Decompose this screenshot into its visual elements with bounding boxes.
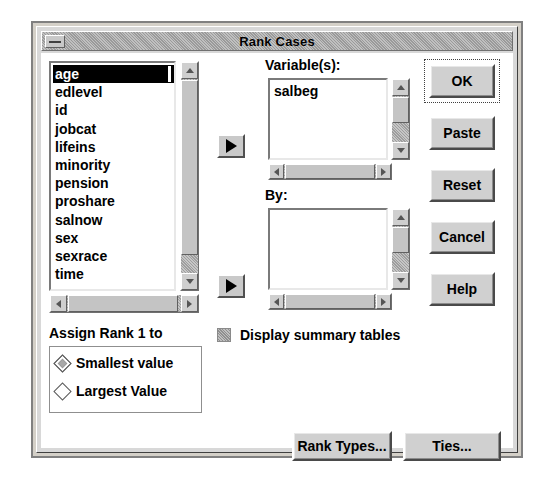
by-label: By: <box>265 187 288 203</box>
move-to-by-button[interactable] <box>217 274 245 298</box>
checkbox-box-icon[interactable] <box>217 328 231 342</box>
scroll-right-icon[interactable] <box>181 295 198 312</box>
reset-button[interactable]: Reset <box>429 168 495 202</box>
variables-vertical-scrollbar[interactable] <box>391 78 410 160</box>
by-list[interactable] <box>268 208 388 290</box>
list-item[interactable]: sex <box>53 229 174 247</box>
ok-button-label: OK <box>452 73 473 89</box>
list-item[interactable]: jobcat <box>53 120 174 138</box>
scrollbar-thumb[interactable] <box>392 97 409 123</box>
list-item[interactable]: salnow <box>53 211 174 229</box>
list-item[interactable]: sexrace <box>53 247 174 265</box>
arrow-right-icon <box>226 279 237 293</box>
cancel-button[interactable]: Cancel <box>429 220 495 254</box>
source-list-horizontal-scrollbar[interactable] <box>49 294 199 313</box>
scroll-left-icon[interactable] <box>269 294 284 309</box>
ties-button[interactable]: Ties... <box>403 431 501 461</box>
scrollbar-thumb[interactable] <box>285 294 375 309</box>
list-item[interactable]: pension <box>53 174 174 192</box>
scroll-up-icon[interactable] <box>392 79 409 96</box>
dialog-body: age edlevel id jobcat lifeins minority p… <box>41 53 513 448</box>
radio-largest-value-label: Largest Value <box>76 383 167 399</box>
scroll-up-icon[interactable] <box>392 209 409 226</box>
display-summary-tables-checkbox[interactable]: Display summary tables <box>217 327 400 343</box>
paste-button[interactable]: Paste <box>429 116 495 150</box>
window-menu-icon[interactable] <box>45 35 65 48</box>
arrow-right-icon <box>226 139 237 153</box>
variables-horizontal-scrollbar[interactable] <box>268 163 392 180</box>
list-item[interactable]: age <box>53 65 174 83</box>
list-item[interactable]: id <box>53 101 174 119</box>
ties-button-label: Ties... <box>432 438 471 454</box>
list-item[interactable]: proshare <box>53 192 174 210</box>
scroll-left-icon[interactable] <box>269 164 284 179</box>
scrollbar-thumb[interactable] <box>285 164 375 179</box>
scroll-down-icon[interactable] <box>181 273 198 290</box>
rank-cases-dialog: Rank Cases age edlevel id jobcat lifeins… <box>31 21 523 458</box>
rank-types-button-label: Rank Types... <box>297 438 386 454</box>
list-item[interactable]: edlevel <box>53 83 174 101</box>
list-item[interactable]: lifeins <box>53 138 174 156</box>
variables-list[interactable]: salbeg <box>268 78 388 160</box>
scroll-right-icon[interactable] <box>376 164 391 179</box>
radio-largest-value[interactable]: Largest Value <box>56 383 167 399</box>
variables-label: Variable(s): <box>265 57 340 73</box>
scroll-down-icon[interactable] <box>392 272 409 289</box>
title-bar[interactable]: Rank Cases <box>41 31 513 51</box>
list-item[interactable]: time <box>53 265 174 283</box>
scrollbar-thumb[interactable] <box>68 295 178 312</box>
scroll-down-icon[interactable] <box>392 142 409 159</box>
help-button[interactable]: Help <box>429 272 495 306</box>
radio-diamond-icon[interactable] <box>53 354 71 372</box>
help-button-label: Help <box>447 281 477 297</box>
move-to-variables-button[interactable] <box>217 134 245 158</box>
scroll-left-icon[interactable] <box>50 295 67 312</box>
assign-rank-label: Assign Rank 1 to <box>49 325 163 341</box>
assign-rank-group: Smallest value Largest Value <box>49 346 202 413</box>
window-title: Rank Cases <box>239 34 315 49</box>
radio-smallest-value-label: Smallest value <box>76 355 173 371</box>
dialog-inner-frame: Rank Cases age edlevel id jobcat lifeins… <box>36 26 518 453</box>
reset-button-label: Reset <box>443 177 481 193</box>
list-item[interactable]: minority <box>53 156 174 174</box>
display-summary-tables-label: Display summary tables <box>240 327 400 343</box>
scrollbar-thumb[interactable] <box>181 80 198 255</box>
scroll-up-icon[interactable] <box>181 62 198 79</box>
by-horizontal-scrollbar[interactable] <box>268 293 392 310</box>
scrollbar-thumb[interactable] <box>392 227 409 253</box>
rank-types-button[interactable]: Rank Types... <box>292 431 392 461</box>
source-list-vertical-scrollbar[interactable] <box>180 61 199 291</box>
cancel-button-label: Cancel <box>439 229 485 245</box>
radio-smallest-value[interactable]: Smallest value <box>56 355 173 371</box>
scroll-right-icon[interactable] <box>376 294 391 309</box>
paste-button-label: Paste <box>443 125 480 141</box>
ok-button[interactable]: OK <box>429 64 495 98</box>
list-item[interactable]: salbeg <box>272 82 386 100</box>
radio-diamond-icon[interactable] <box>53 382 71 400</box>
source-variable-list[interactable]: age edlevel id jobcat lifeins minority p… <box>49 61 176 291</box>
by-vertical-scrollbar[interactable] <box>391 208 410 290</box>
